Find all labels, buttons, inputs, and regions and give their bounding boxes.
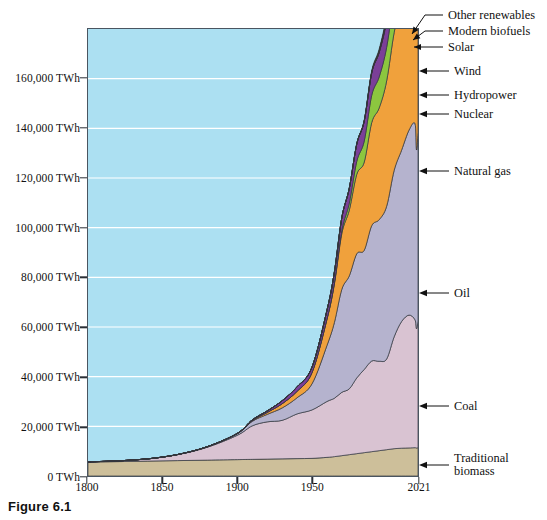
x-axis-tick-mark bbox=[86, 477, 87, 484]
figure-root: 160,000 TWh140,000 TWh120,000 TWh100,000… bbox=[0, 0, 547, 520]
callout-label-solar[interactable]: Solar bbox=[448, 41, 474, 54]
callout-label-modern-biofuels[interactable]: Modern biofuels bbox=[448, 25, 530, 38]
callout-label-other-renewables[interactable]: Other renewables bbox=[448, 9, 535, 22]
x-axis-tick-mark bbox=[418, 477, 419, 484]
callout-label-hydropower[interactable]: Hydropower bbox=[454, 89, 517, 102]
x-axis-tick-mark bbox=[237, 477, 238, 484]
callout-label-traditional-biomass[interactable]: Traditional biomass bbox=[454, 452, 526, 479]
callout-label-nuclear[interactable]: Nuclear bbox=[454, 108, 493, 121]
x-axis-tick-mark bbox=[161, 477, 162, 484]
callout-label-oil[interactable]: Oil bbox=[454, 287, 470, 300]
callout-label-wind[interactable]: Wind bbox=[454, 65, 481, 78]
callout-label-coal[interactable]: Coal bbox=[454, 400, 477, 413]
figure-caption: Figure 6.1 bbox=[8, 499, 71, 514]
callout-label-natural-gas[interactable]: Natural gas bbox=[454, 165, 511, 178]
x-axis-tick-mark bbox=[312, 477, 313, 484]
